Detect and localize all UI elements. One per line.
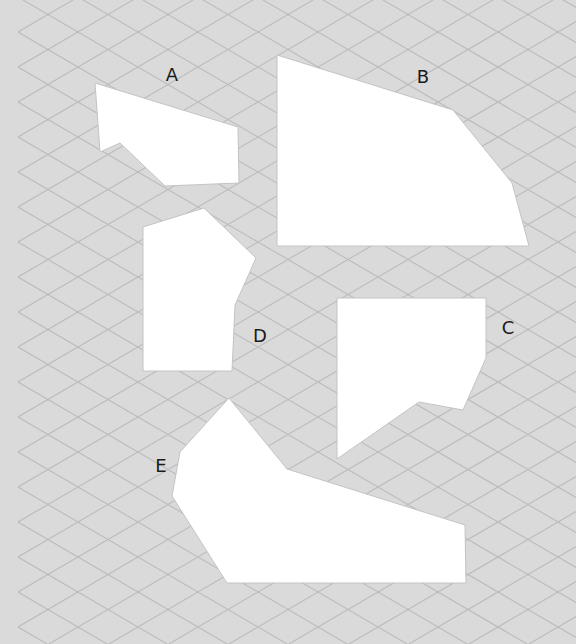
shape-label-e: E bbox=[155, 455, 166, 476]
grid-line bbox=[18, 592, 576, 644]
grid-line bbox=[18, 0, 576, 32]
shape-e bbox=[172, 398, 466, 583]
grid-line bbox=[18, 0, 576, 67]
shape-pieces bbox=[95, 55, 529, 583]
diagram-canvas: ABCDE bbox=[0, 0, 576, 644]
shape-a bbox=[95, 83, 239, 186]
shape-d bbox=[143, 208, 256, 371]
shape-label-d: D bbox=[253, 325, 267, 346]
shape-label-c: C bbox=[502, 317, 515, 338]
grid-line bbox=[18, 0, 576, 43]
diagram-svg: ABCDE bbox=[0, 0, 576, 644]
shape-label-b: B bbox=[417, 66, 429, 87]
grid-line bbox=[18, 0, 576, 8]
shape-b bbox=[277, 55, 529, 246]
shape-c bbox=[337, 298, 486, 459]
shape-label-a: A bbox=[166, 64, 179, 85]
